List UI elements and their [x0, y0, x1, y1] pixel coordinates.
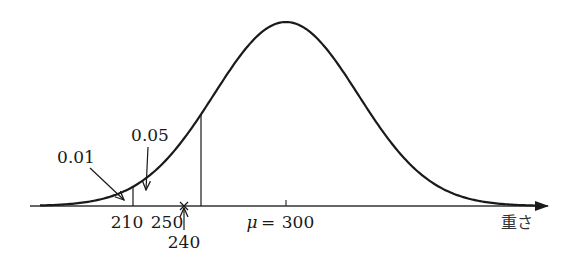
mean-equals: =	[261, 212, 275, 232]
annotation-arrow-0-05	[146, 147, 148, 190]
annotation-label-0-01: 0.01	[57, 147, 95, 167]
annotation-arrow-0-01	[90, 168, 124, 200]
axis-label: 重さ	[501, 213, 533, 232]
density-curve	[40, 22, 540, 206]
mean-symbol: μ	[246, 212, 257, 232]
annotation-label-0-05: 0.05	[131, 125, 169, 145]
normal-distribution-diagram: 0.01 0.05 210 250 240 μ = 300 重さ	[0, 0, 576, 263]
tick-label-240: 240	[168, 232, 200, 252]
tick-label-250: 250	[151, 212, 183, 232]
tick-label-210: 210	[111, 212, 143, 232]
mean-value: 300	[282, 212, 314, 232]
